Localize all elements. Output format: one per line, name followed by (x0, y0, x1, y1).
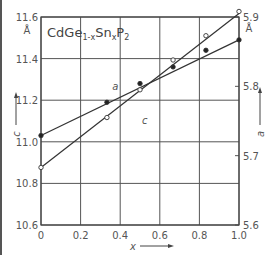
data-point-a (39, 133, 43, 137)
data-point-c (204, 34, 208, 38)
data-point-a (138, 81, 142, 85)
y-left-tick-label: 11.0 (16, 137, 38, 148)
y-left-tick-label: 11.2 (16, 95, 38, 106)
left-unit-label: Å (24, 24, 31, 36)
right-unit-label: Å (246, 22, 253, 34)
right-axis-label: a (255, 131, 266, 137)
data-point-a (204, 48, 208, 52)
x-tick-label: 0 (38, 230, 44, 241)
chart: 00.20.40.60.81.010.610.811.011.211.411.6… (0, 0, 267, 255)
x-tick-label: 1.0 (231, 230, 247, 241)
x-tick-label: 0.4 (112, 230, 128, 241)
data-point-a (237, 38, 241, 42)
x-axis-label: x (129, 241, 136, 252)
y-right-tick-label: 5.7 (243, 151, 259, 162)
x-tick-label: 0.2 (73, 230, 89, 241)
y-left-tick-label: 11.6 (16, 12, 38, 23)
y-right-tick-label: 5.9 (243, 12, 259, 23)
left-axis-label: c (11, 131, 22, 137)
series-annotation-c: c (142, 115, 148, 126)
x-tick-label: 0.6 (152, 230, 168, 241)
x-axis-arrowhead (168, 244, 174, 248)
data-point-c (138, 88, 142, 92)
y-right-tick-label: 5.6 (243, 220, 259, 231)
data-point-c (105, 115, 109, 119)
y-left-tick-label: 10.8 (16, 178, 38, 189)
data-point-c (171, 58, 175, 62)
data-point-c (39, 165, 43, 169)
chart-title: CdGe1-xSnxP2 (47, 25, 129, 42)
y-right-tick-label: 5.8 (243, 81, 259, 92)
y-left-tick-label: 11.4 (16, 54, 38, 65)
x-tick-label: 0.8 (191, 230, 207, 241)
data-point-c (237, 9, 241, 13)
data-point-a (105, 100, 109, 104)
y-left-tick-label: 10.6 (16, 220, 38, 231)
series-annotation-a: a (112, 81, 118, 92)
